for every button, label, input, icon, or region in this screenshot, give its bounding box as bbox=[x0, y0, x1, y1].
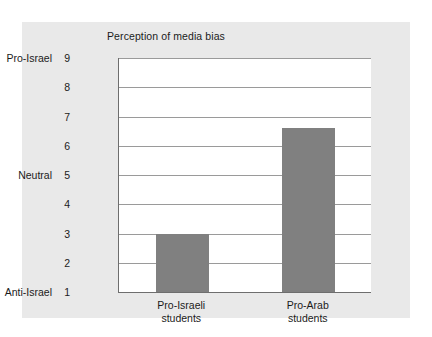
y-axis-tick-label: 8 bbox=[56, 81, 70, 93]
y-axis-tick-label: 6 bbox=[56, 140, 70, 152]
chart-figure: Perception of media bias 987654321Pro-Is… bbox=[22, 22, 410, 318]
x-axis-category-line: Pro-Israeli bbox=[157, 299, 205, 312]
y-axis-tick-label: 4 bbox=[56, 198, 70, 210]
y-axis-anchor-label: Anti-Israel bbox=[0, 286, 52, 298]
y-axis-tick-label: 7 bbox=[56, 111, 70, 123]
x-axis-category-label: Pro-Arabstudents bbox=[287, 299, 329, 325]
y-axis-tick-label: 3 bbox=[56, 228, 70, 240]
x-axis-category-label: Pro-Israelistudents bbox=[157, 299, 205, 325]
y-axis-anchor-label: Pro-Israel bbox=[0, 52, 52, 64]
x-axis-category-line: Pro-Arab bbox=[287, 299, 329, 312]
y-axis-anchor-label: Neutral bbox=[0, 169, 52, 181]
y-axis-tick-label: 2 bbox=[56, 257, 70, 269]
x-axis-category-line: students bbox=[287, 312, 329, 325]
chart-title: Perception of media bias bbox=[107, 30, 225, 42]
x-axis-category-line: students bbox=[157, 312, 205, 325]
y-axis-tick-label: 5 bbox=[56, 169, 70, 181]
gridline bbox=[119, 87, 371, 88]
plot-area bbox=[118, 58, 371, 293]
bar[interactable] bbox=[282, 128, 335, 292]
bar[interactable] bbox=[156, 234, 209, 293]
gridline bbox=[119, 58, 371, 59]
y-axis-tick-label: 9 bbox=[56, 52, 70, 64]
y-axis-tick-label: 1 bbox=[56, 286, 70, 298]
gridline bbox=[119, 117, 371, 118]
